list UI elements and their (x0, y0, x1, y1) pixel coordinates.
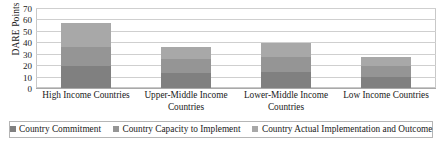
x-axis-tick-label: Lower-Middle Income Countries (236, 90, 336, 113)
legend-swatch-icon (113, 126, 119, 132)
plot-area: 706050403020100 (36, 8, 436, 88)
bar-segment[interactable] (161, 47, 211, 60)
legend-label: Country Commitment (19, 125, 101, 134)
legend-label: Country Capacity to Implement (122, 125, 240, 134)
y-axis-tick-label: 60 (23, 16, 32, 25)
y-axis-tick-label: 50 (23, 27, 32, 36)
legend-item[interactable]: Country Actual Implementation and Outcom… (252, 125, 432, 134)
y-axis-title: DARE Points (11, 0, 21, 67)
bar-segment[interactable] (61, 66, 111, 88)
bar-segment[interactable] (161, 59, 211, 73)
y-axis-tick-label: 40 (23, 39, 32, 48)
bar-group[interactable] (261, 43, 311, 88)
bar-group[interactable] (61, 23, 111, 88)
bar-segment[interactable] (61, 47, 111, 66)
bar-segment[interactable] (61, 23, 111, 47)
bar-group[interactable] (161, 47, 211, 88)
y-axis-tick-label: 30 (23, 50, 32, 59)
legend-swatch-icon (10, 126, 16, 132)
gridline: 0 (36, 88, 436, 89)
bar-segment[interactable] (361, 57, 411, 66)
y-axis-tick-label: 0 (28, 85, 33, 94)
chart-legend: Country CommitmentCountry Capacity to Im… (9, 121, 433, 138)
bar-segment[interactable] (361, 66, 411, 76)
legend-label: Country Actual Implementation and Outcom… (262, 125, 432, 134)
bar-segment[interactable] (261, 43, 311, 57)
y-axis-tick-label: 20 (23, 62, 32, 71)
bar-segment[interactable] (261, 57, 311, 72)
bar-group[interactable] (361, 57, 411, 88)
x-axis-tick-label: Upper-Middle Income Countries (136, 90, 236, 113)
stacked-bar-chart: DARE Points 706050403020100 High Income … (0, 0, 442, 148)
bar-segment[interactable] (261, 72, 311, 88)
x-axis-tick-label: High Income Countries (36, 90, 136, 102)
y-axis-tick-label: 70 (23, 5, 32, 14)
legend-item[interactable]: Country Commitment (10, 125, 101, 134)
y-axis-tick-label: 10 (23, 73, 32, 82)
x-axis-tick-label: Low Income Countries (336, 90, 436, 102)
bars-layer (36, 8, 436, 88)
bar-segment[interactable] (161, 73, 211, 88)
legend-item[interactable]: Country Capacity to Implement (113, 125, 241, 134)
x-axis-tick-labels: High Income CountriesUpper-Middle Income… (36, 90, 436, 116)
legend-swatch-icon (252, 126, 258, 132)
bar-segment[interactable] (361, 77, 411, 88)
